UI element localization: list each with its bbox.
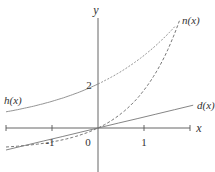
- y-axis-label: y: [92, 3, 99, 17]
- n-label: n(x): [182, 14, 200, 27]
- x-tick-label-neg1: -1: [45, 136, 54, 148]
- function-graph: y x -1 1 0 2 h(x) n(x) d(x): [0, 0, 215, 172]
- axes: [6, 18, 190, 172]
- x-tick-label-1: 1: [141, 136, 147, 148]
- h-curve-right: [98, 26, 175, 84]
- origin-label: 0: [85, 136, 91, 148]
- x-axis-label: x: [195, 121, 202, 135]
- d-label: d(x): [197, 99, 215, 112]
- y-value-2-label: 2: [86, 79, 92, 91]
- h-label: h(x): [4, 94, 22, 107]
